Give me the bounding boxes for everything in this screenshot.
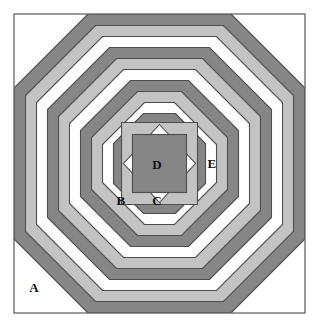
figure-root: A B C D E <box>0 0 318 328</box>
region-label-d: D <box>152 158 162 171</box>
region-label-a: A <box>29 281 39 294</box>
region-label-b: B <box>117 194 126 207</box>
region-label-e: E <box>208 157 217 170</box>
region-label-c: C <box>152 194 162 207</box>
